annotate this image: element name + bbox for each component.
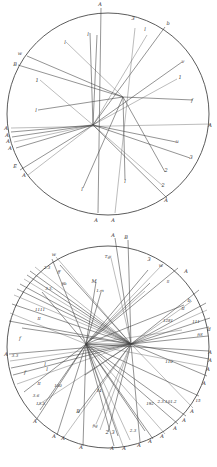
chord-line bbox=[93, 35, 97, 125]
chord-diagram-figure: A3blllwB1v1lfAAAAAu3EA2l2lAAA ABwTgi2.3f… bbox=[0, 0, 217, 467]
chord-line bbox=[30, 271, 131, 344]
point-label: A bbox=[189, 408, 194, 414]
point-label: A bbox=[32, 418, 37, 424]
point-label: fiS bbox=[196, 332, 203, 337]
point-label: l bbox=[87, 31, 89, 37]
lower-circle-diagram: ABwTgi2.3ff3wAfibM3.3.ll1.mb1111IIII1281… bbox=[3, 232, 212, 451]
point-label: A bbox=[201, 380, 206, 386]
point-label: 3 bbox=[131, 15, 134, 21]
chord-line bbox=[86, 305, 184, 344]
point-label: ff bbox=[57, 269, 62, 274]
chord-line bbox=[20, 284, 131, 344]
point-label: 14 bbox=[96, 388, 102, 393]
point-label: A bbox=[5, 138, 10, 144]
chord-line bbox=[123, 97, 125, 180]
point-label: A bbox=[207, 357, 212, 363]
lower-labels: ABwTgi2.3ff3wAfibM3.3.ll1.mb1111IIII1281… bbox=[3, 232, 212, 451]
point-label: A bbox=[3, 125, 8, 131]
point-label: 2.3 bbox=[129, 428, 137, 433]
chord-line bbox=[93, 125, 176, 142]
chord-line bbox=[115, 28, 135, 213]
chord-line bbox=[38, 97, 123, 110]
point-label: b bbox=[166, 20, 169, 26]
chord-line bbox=[40, 344, 86, 410]
chord-line bbox=[86, 291, 145, 344]
point-label: l bbox=[81, 186, 83, 192]
point-label: A bbox=[181, 417, 186, 423]
point-label: 3 bbox=[189, 154, 192, 160]
chord-line bbox=[27, 56, 123, 97]
chord-line bbox=[35, 267, 131, 344]
point-label: 3 bbox=[147, 256, 150, 262]
point-label: fig bbox=[91, 423, 98, 428]
chord-line bbox=[86, 344, 186, 416]
chord-line bbox=[83, 97, 123, 188]
chord-line bbox=[93, 35, 147, 125]
point-label: A bbox=[109, 445, 114, 451]
upper-circle-diagram: A3blllwB1v1lfAAAAAu3EA2l2lAAA bbox=[3, 1, 212, 223]
point-label: 100 bbox=[54, 383, 62, 388]
point-label: A bbox=[205, 366, 210, 372]
point-label: 2.3.101.2 bbox=[156, 399, 177, 404]
point-label: 192 bbox=[146, 401, 154, 406]
chord-line bbox=[100, 344, 131, 430]
point-label: 3 bbox=[111, 429, 114, 435]
point-label: A bbox=[97, 1, 102, 7]
point-label: 1 bbox=[178, 74, 181, 80]
point-label: 1281 bbox=[163, 318, 173, 323]
point-label: A bbox=[121, 445, 126, 451]
point-label: 2 bbox=[163, 167, 167, 173]
point-label: 13.3. bbox=[36, 401, 46, 406]
point-label: 2.3 bbox=[43, 265, 51, 270]
point-label: A bbox=[21, 172, 26, 178]
upper-boundary-circle bbox=[7, 13, 209, 215]
point-label: v bbox=[182, 58, 185, 64]
point-label: B bbox=[12, 61, 17, 67]
point-label: l bbox=[124, 178, 126, 184]
chord-line bbox=[40, 80, 93, 125]
point-label: A bbox=[60, 435, 65, 441]
point-label: l bbox=[64, 39, 66, 45]
chord-line bbox=[93, 125, 167, 198]
point-label: l bbox=[144, 26, 146, 32]
point-label: 110 bbox=[165, 359, 173, 364]
point-label: f bbox=[190, 97, 194, 104]
chord-line bbox=[9, 321, 131, 344]
chord-line bbox=[86, 282, 96, 344]
chord-line bbox=[90, 33, 93, 125]
chord-line bbox=[28, 125, 93, 175]
point-label: w bbox=[159, 262, 164, 268]
point-label: B bbox=[123, 234, 128, 240]
point-label: A bbox=[110, 232, 115, 238]
lower-chords bbox=[9, 238, 210, 446]
upper-labels: A3blllwB1v1lfAAAAAu3EA2l2lAAA bbox=[3, 1, 212, 223]
point-label: Tgi bbox=[105, 254, 112, 259]
point-label: II bbox=[180, 306, 185, 311]
point-label: w bbox=[52, 251, 57, 257]
point-label: d bbox=[207, 326, 210, 332]
point-label: A bbox=[110, 217, 115, 223]
chord-line bbox=[83, 344, 86, 446]
point-label: 1111 bbox=[35, 307, 45, 312]
point-label: f bbox=[23, 369, 27, 376]
point-label: l bbox=[35, 107, 37, 113]
point-label: A bbox=[136, 442, 141, 448]
chord-line bbox=[131, 344, 209, 359]
point-label: A bbox=[78, 444, 83, 450]
chord-line bbox=[98, 8, 101, 213]
point-label: l bbox=[46, 366, 48, 372]
point-label: 3.3. bbox=[45, 286, 53, 291]
chord-line bbox=[93, 125, 163, 186]
point-label: 111 bbox=[192, 319, 200, 324]
point-label: w bbox=[18, 50, 23, 56]
point-label: f bbox=[18, 335, 22, 342]
point-label: 1.m bbox=[96, 288, 104, 293]
point-label: A bbox=[147, 438, 152, 444]
point-label: A bbox=[3, 351, 8, 357]
chord-line bbox=[93, 62, 182, 125]
point-label: 3.6 bbox=[33, 393, 40, 398]
chord-line bbox=[18, 65, 123, 97]
point-label: 1 bbox=[35, 77, 38, 83]
chord-line bbox=[111, 258, 131, 344]
point-label: ll bbox=[167, 279, 170, 284]
